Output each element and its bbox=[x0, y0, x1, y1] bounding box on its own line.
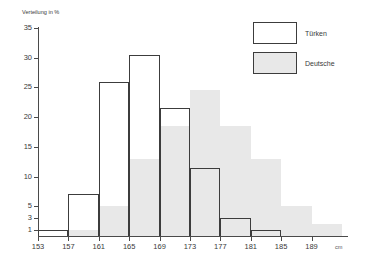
x-tick bbox=[251, 237, 252, 241]
x-tick-label: 153 bbox=[25, 243, 51, 251]
x-tick bbox=[99, 237, 100, 241]
bar-turken bbox=[99, 82, 129, 237]
y-tick-label: 1 bbox=[8, 226, 32, 234]
legend-label-turken: Türken bbox=[305, 29, 327, 38]
x-tick-label: 161 bbox=[86, 243, 112, 251]
x-tick bbox=[190, 237, 191, 241]
y-tick-label: 3 bbox=[8, 214, 32, 222]
chart-legend: Türken Deutsche bbox=[253, 22, 358, 82]
x-axis-unit-label: cm bbox=[335, 244, 342, 251]
x-axis-line bbox=[38, 236, 348, 237]
y-axis-title: Verteilung in % bbox=[22, 9, 59, 16]
x-tick bbox=[220, 237, 221, 241]
x-tick-label: 173 bbox=[177, 243, 203, 251]
legend-label-deutsche: Deutsche bbox=[305, 59, 335, 68]
x-tick-label: 165 bbox=[116, 243, 142, 251]
legend-swatch-deutsche bbox=[253, 52, 297, 74]
bar-deutsche bbox=[312, 224, 342, 236]
x-tick bbox=[281, 237, 282, 241]
y-tick-label: 20 bbox=[8, 113, 32, 121]
legend-item-turken: Türken bbox=[253, 22, 358, 48]
x-tick bbox=[129, 237, 130, 241]
x-tick bbox=[312, 237, 313, 241]
x-tick-label: 185 bbox=[268, 243, 294, 251]
x-tick-label: 157 bbox=[55, 243, 81, 251]
y-tick-label: 35 bbox=[8, 24, 32, 32]
x-tick-label: 189 bbox=[299, 243, 325, 251]
y-tick-label: 30 bbox=[8, 54, 32, 62]
x-tick-label: 181 bbox=[238, 243, 264, 251]
x-tick bbox=[38, 237, 39, 241]
y-tick-label: 25 bbox=[8, 83, 32, 91]
y-tick-label: 5 bbox=[8, 202, 32, 210]
bar-turken bbox=[160, 108, 190, 236]
bar-turken bbox=[190, 168, 220, 236]
y-tick-label: 10 bbox=[8, 173, 32, 181]
legend-swatch-turken bbox=[253, 22, 297, 44]
bar-turken bbox=[38, 230, 68, 236]
legend-item-deutsche: Deutsche bbox=[253, 52, 358, 78]
bar-turken bbox=[129, 55, 159, 236]
bar-turken bbox=[68, 194, 98, 236]
bar-turken bbox=[251, 230, 281, 236]
x-tick-label: 169 bbox=[147, 243, 173, 251]
bar-deutsche bbox=[281, 206, 311, 236]
x-tick-label: 177 bbox=[207, 243, 233, 251]
x-tick bbox=[68, 237, 69, 241]
histogram-chart: Verteilung in % 353025201510531 15315716… bbox=[0, 0, 365, 266]
x-tick bbox=[160, 237, 161, 241]
bar-turken bbox=[220, 218, 250, 236]
y-tick-label: 15 bbox=[8, 143, 32, 151]
bar-deutsche bbox=[251, 159, 281, 236]
